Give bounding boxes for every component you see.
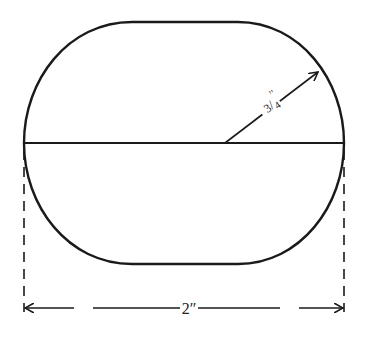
width-label: 2″ <box>182 300 197 317</box>
oval-dimension-diagram: 3 / 4 ′′ 2″ <box>0 0 370 340</box>
